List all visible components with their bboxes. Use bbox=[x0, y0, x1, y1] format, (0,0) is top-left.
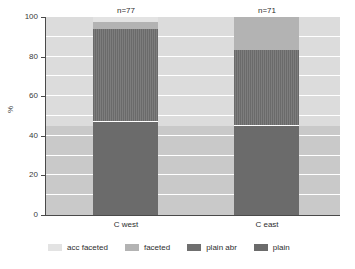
x-tick-label-c-west: C west bbox=[80, 220, 172, 229]
y-axis-line bbox=[45, 17, 46, 215]
legend-swatch-icon-plain-abr bbox=[187, 244, 201, 251]
y-tick-label-80: 80 bbox=[14, 53, 38, 61]
legend-item-acc-faceted[interactable]: acc faceted bbox=[48, 243, 108, 252]
group-n-label-c-east: n=71 bbox=[221, 6, 313, 15]
y-tick-label-60: 60 bbox=[14, 92, 38, 100]
y-tick-mark-40 bbox=[41, 136, 45, 137]
y-tick-mark-60 bbox=[41, 96, 45, 97]
legend-item-plain[interactable]: plain bbox=[254, 243, 290, 252]
legend-label-plain-abr: plain abr bbox=[206, 243, 237, 252]
y-tick-label-0: 0 bbox=[14, 211, 38, 219]
y-tick-label-100: 100 bbox=[14, 13, 38, 21]
y-tick-mark-20 bbox=[41, 175, 45, 176]
legend-label-plain: plain bbox=[273, 243, 290, 252]
chart-figure: 100 80 60 40 20 0 % n=77 n=71 C west C e… bbox=[0, 0, 355, 269]
y-tick-mark-0 bbox=[41, 215, 45, 216]
bar-segment-plain-c-west[interactable] bbox=[93, 122, 158, 215]
legend-item-faceted[interactable]: faceted bbox=[125, 243, 170, 252]
legend-swatch-icon-faceted bbox=[125, 244, 139, 251]
chart-legend: acc faceted faceted plain abr plain bbox=[48, 243, 307, 252]
plot-area bbox=[45, 17, 340, 215]
y-tick-label-20: 20 bbox=[14, 171, 38, 179]
legend-item-plain-abr[interactable]: plain abr bbox=[187, 243, 237, 252]
bar-segment-plain-abr-c-west[interactable] bbox=[93, 29, 158, 122]
legend-label-acc-faceted: acc faceted bbox=[67, 243, 108, 252]
x-axis-line bbox=[45, 215, 340, 216]
y-tick-mark-80 bbox=[41, 57, 45, 58]
y-tick-mark-100 bbox=[41, 17, 45, 18]
bar-segment-plain-c-east[interactable] bbox=[234, 126, 299, 215]
legend-swatch-icon-plain bbox=[254, 244, 268, 251]
x-tick-label-c-east: C east bbox=[221, 220, 313, 229]
bar-c-east[interactable] bbox=[234, 17, 299, 215]
group-n-label-c-west: n=77 bbox=[80, 6, 172, 15]
bar-segment-acc-faceted-c-west[interactable] bbox=[93, 17, 158, 22]
y-tick-label-40: 40 bbox=[14, 132, 38, 140]
legend-swatch-icon-acc-faceted bbox=[48, 244, 62, 251]
legend-label-faceted: faceted bbox=[144, 243, 170, 252]
bar-segment-plain-abr-c-east[interactable] bbox=[234, 50, 299, 126]
bar-segment-faceted-c-east[interactable] bbox=[234, 17, 299, 50]
y-axis-title: % bbox=[6, 106, 15, 113]
bar-c-west[interactable] bbox=[93, 17, 158, 215]
bar-segment-faceted-c-west[interactable] bbox=[93, 22, 158, 29]
